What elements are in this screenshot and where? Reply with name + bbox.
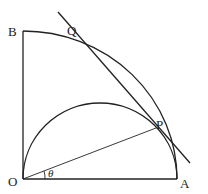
segment-OP bbox=[23, 128, 156, 179]
label-Q: Q bbox=[67, 23, 77, 38]
geometry-diagram: B Q P O A θ bbox=[0, 0, 208, 194]
label-P: P bbox=[156, 117, 163, 132]
angle-arc-theta bbox=[44, 171, 45, 179]
label-A: A bbox=[180, 176, 190, 191]
label-O: O bbox=[8, 174, 17, 189]
label-B: B bbox=[8, 24, 17, 39]
semicircle-on-OA bbox=[23, 103, 177, 179]
label-theta: θ bbox=[48, 167, 54, 179]
quarter-circle-arc bbox=[23, 31, 177, 179]
